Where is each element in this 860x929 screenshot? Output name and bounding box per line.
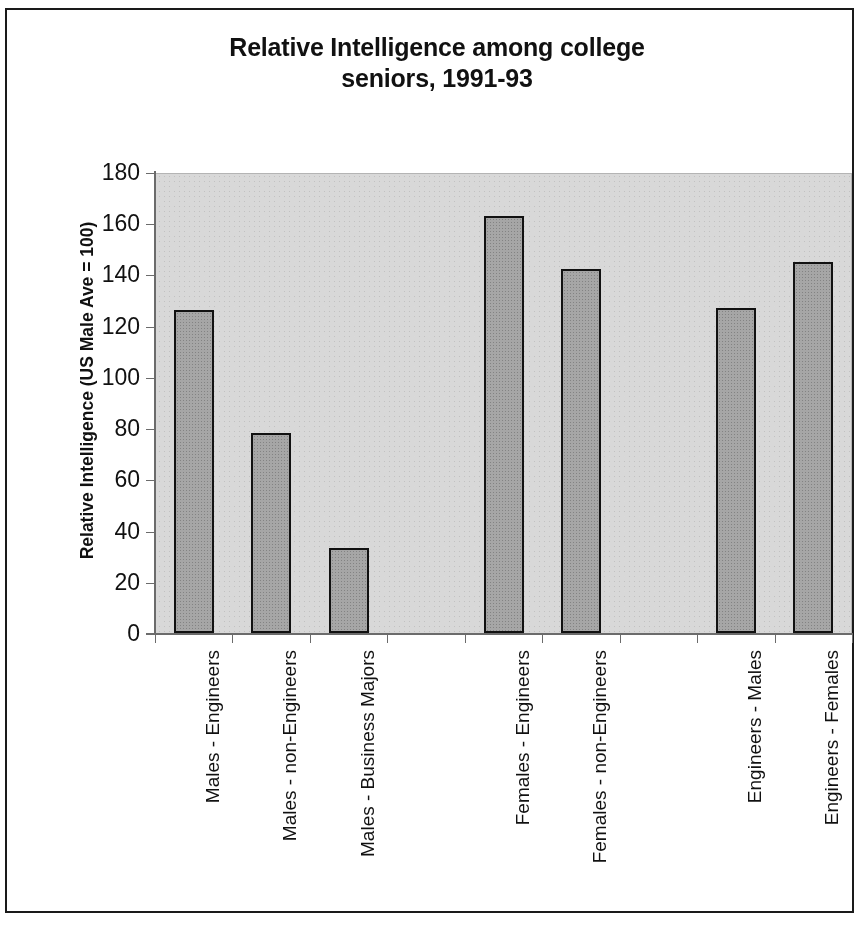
bar	[251, 433, 291, 633]
y-tick	[146, 327, 155, 328]
bar-texture	[253, 435, 289, 631]
y-tick-label: 0	[20, 620, 140, 647]
bar-texture	[795, 264, 831, 631]
x-category-label: Engineers - Females	[821, 650, 843, 825]
y-tick-label: 160	[20, 210, 140, 237]
y-tick	[146, 378, 155, 379]
chart-title-line-1: Relative Intelligence among college	[229, 33, 644, 61]
x-tick	[697, 633, 698, 643]
y-tick	[146, 275, 155, 276]
x-tick	[465, 633, 466, 643]
y-tick	[146, 224, 155, 225]
x-category-label: Females - non-Engineers	[589, 650, 611, 863]
bar	[484, 216, 524, 633]
y-axis-line	[154, 171, 156, 634]
y-tick-label: 120	[20, 313, 140, 340]
y-tick-label: 100	[20, 364, 140, 391]
bar-texture	[331, 550, 367, 631]
y-tick	[146, 634, 155, 635]
x-tick	[542, 633, 543, 643]
y-tick-label: 180	[20, 159, 140, 186]
x-tick	[620, 633, 621, 643]
x-category-label: Males - non-Engineers	[279, 650, 301, 841]
y-tick-label: 140	[20, 261, 140, 288]
chart-frame: Relative Intelligence among college seni…	[5, 8, 854, 913]
bar-texture	[176, 312, 212, 631]
bar-texture	[486, 218, 522, 631]
x-category-label: Engineers - Males	[744, 650, 766, 803]
x-tick	[852, 633, 853, 643]
y-tick	[146, 532, 155, 533]
bar-texture	[563, 271, 599, 631]
chart-title-line-2: seniors, 1991-93	[341, 64, 532, 92]
plot-area: 180160140120100806040200	[155, 173, 852, 634]
x-category-label: Males - Business Majors	[357, 650, 379, 857]
y-tick	[146, 173, 155, 174]
x-tick	[155, 633, 156, 643]
y-tick	[146, 480, 155, 481]
y-tick-label: 40	[20, 518, 140, 545]
x-axis-line	[146, 633, 852, 635]
y-tick-label: 20	[20, 569, 140, 596]
x-tick	[775, 633, 776, 643]
bar	[329, 548, 369, 633]
y-tick	[146, 583, 155, 584]
x-tick	[387, 633, 388, 643]
x-tick	[310, 633, 311, 643]
chart-title: Relative Intelligence among college seni…	[127, 32, 747, 95]
bar	[174, 310, 214, 633]
bar	[716, 308, 756, 633]
x-category-label: Males - Engineers	[202, 650, 224, 803]
bar	[561, 269, 601, 633]
x-category-label: Females - Engineers	[512, 650, 534, 825]
y-tick-label: 80	[20, 415, 140, 442]
bar	[793, 262, 833, 633]
bar-texture	[718, 310, 754, 631]
y-tick	[146, 429, 155, 430]
y-tick-label: 60	[20, 466, 140, 493]
x-tick	[232, 633, 233, 643]
